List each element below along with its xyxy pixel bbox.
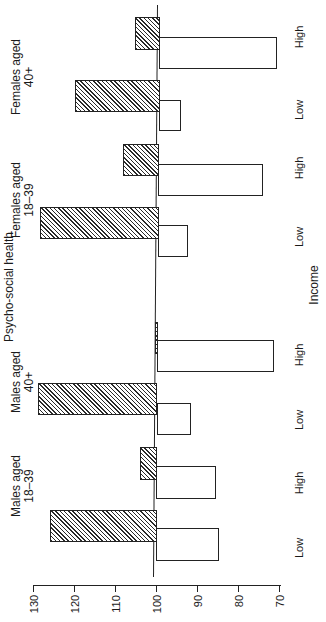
- bar-males-18-39-low-hatched: [50, 510, 157, 542]
- bar-females-40-low-hatched: [75, 80, 160, 112]
- x-axis-title: Income: [308, 265, 320, 304]
- income-label-low-f40: Low: [293, 100, 305, 120]
- income-label-high-f1839: High: [293, 157, 305, 180]
- bar-males-40-high-open: [157, 340, 274, 372]
- bar-males-18-39-high-hatched: [140, 447, 157, 480]
- income-label-high-f40: High: [293, 26, 305, 49]
- bar-males-40-low-open: [157, 403, 191, 435]
- y-axis-title: Psycho-social health: [3, 232, 15, 342]
- income-label-high-m1839: High: [293, 472, 305, 495]
- group-label-females-18-39: Females aged 18–39: [10, 162, 36, 238]
- tick-label-70: 70: [274, 595, 286, 607]
- group-label-males-40plus: Males aged 40+: [10, 351, 36, 413]
- tick-label-120: 120: [69, 595, 81, 613]
- bar-females-40-high-hatched: [135, 17, 160, 50]
- tick-90: [197, 585, 198, 592]
- tick-80: [238, 585, 239, 592]
- bar-females-40-high-open: [159, 37, 277, 69]
- tick-label-90: 90: [192, 595, 204, 607]
- tick-100: [156, 585, 157, 592]
- tick-120: [74, 585, 75, 592]
- tick-130: [33, 585, 34, 592]
- bar-females-18-39-high-open: [158, 164, 263, 196]
- rotated-bar-chart: 130 120 110 100 90 80 70 Psycho-social h…: [0, 0, 326, 622]
- bar-females-18-39-low-hatched: [40, 207, 159, 239]
- income-label-low-m1839: Low: [293, 538, 305, 558]
- bar-females-40-low-open: [159, 100, 181, 131]
- bar-males-18-39-low-open: [156, 528, 219, 561]
- income-label-low-m40: Low: [293, 410, 305, 430]
- income-label-high-m40: High: [293, 344, 305, 367]
- tick-label-80: 80: [233, 595, 245, 607]
- tick-label-100: 100: [151, 595, 163, 613]
- bar-males-40-low-hatched: [38, 383, 157, 415]
- tick-110: [115, 585, 116, 592]
- group-label-males-18-39: Males aged 18–39: [10, 455, 36, 517]
- bar-males-18-39-high-open: [156, 466, 216, 499]
- tick-70: [279, 585, 280, 592]
- bar-females-18-39-low-open: [158, 225, 188, 257]
- tick-label-130: 130: [28, 595, 40, 613]
- income-label-low-f1839: Low: [293, 227, 305, 247]
- tick-label-110: 110: [110, 595, 122, 613]
- bar-females-18-39-high-hatched: [123, 144, 159, 176]
- group-label-females-40plus: Females aged 40+: [10, 39, 36, 115]
